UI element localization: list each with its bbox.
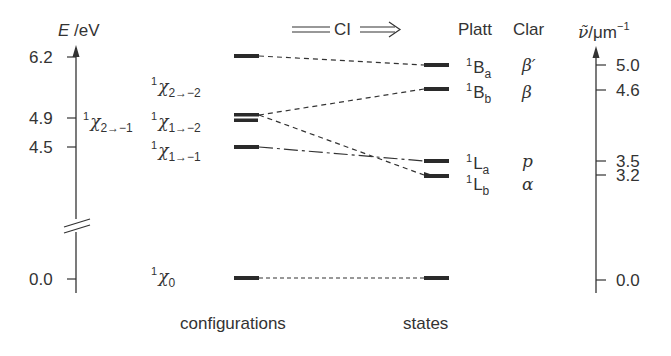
- chi-symbol: χ: [158, 76, 168, 96]
- axis-unit: /μm: [588, 23, 617, 42]
- mult: 1: [466, 173, 472, 185]
- state-bar-La: [424, 159, 449, 163]
- left-tick-label: 0.0: [29, 271, 53, 288]
- right-tick-label: 0.0: [616, 272, 640, 289]
- axis-unit: /eV: [69, 21, 99, 40]
- axis-arrow-icon: [593, 46, 600, 58]
- left-axis-label: E /eV: [58, 22, 100, 39]
- right-tick-label: 5.0: [616, 57, 640, 74]
- platt-letter: B: [473, 83, 484, 102]
- mult: 1: [151, 75, 157, 87]
- clar-label-p: p: [522, 153, 533, 170]
- platt-header: Platt: [458, 21, 492, 38]
- axis-exp: −1: [617, 20, 630, 32]
- subscript: 2→−2: [168, 86, 200, 100]
- mult: 1: [151, 110, 157, 122]
- state-levels: [424, 63, 449, 280]
- config-label-2to-1: 1χ2→−1: [83, 111, 133, 134]
- subscript: 1→−2: [168, 121, 200, 135]
- subscript: 1→−1: [168, 150, 200, 164]
- right-tick-label: 4.6: [616, 82, 640, 99]
- config-bar-1to-2: [234, 113, 259, 117]
- states-column-label: states: [403, 315, 448, 332]
- axis-break-icon: [64, 219, 90, 233]
- correlation-lines: [259, 56, 424, 278]
- right-wavenumber-axis: [593, 46, 607, 293]
- mult: 1: [151, 265, 157, 277]
- config-bar-2to-2: [234, 54, 259, 58]
- subscript: 2→−1: [100, 121, 132, 135]
- state-bar-Lb: [424, 172, 449, 178]
- state-label-Bb: 1Bb: [466, 82, 491, 105]
- mult: 1: [83, 110, 89, 122]
- chi-symbol: χ: [158, 140, 168, 160]
- platt-letter: L: [473, 154, 482, 173]
- state-label-Lb: 1Lb: [466, 174, 489, 197]
- platt-letter: B: [473, 58, 484, 77]
- config-label-1to-2: 1χ1→−2: [151, 111, 201, 134]
- left-energy-axis: [64, 45, 90, 293]
- mult: 1: [466, 56, 472, 68]
- configuration-levels: [234, 54, 259, 280]
- config-bar-ground: [234, 276, 259, 280]
- subscript: b: [483, 184, 490, 198]
- subscript: 0: [168, 276, 175, 290]
- config-label-2to-2: 1χ2→−2: [151, 76, 201, 99]
- config-bar-1to-1: [234, 145, 259, 149]
- clar-header: Clar: [513, 21, 544, 38]
- state-bar-ground: [424, 276, 449, 280]
- chi-symbol: χ: [90, 111, 100, 131]
- config-label-1to-1: 1χ1→−1: [151, 140, 201, 163]
- subscript: a: [484, 67, 491, 81]
- clar-label-beta: β: [522, 84, 532, 101]
- clar-label-alpha: α: [522, 176, 533, 193]
- chi-symbol: χ: [158, 266, 168, 286]
- state-bar-Bb: [424, 87, 449, 91]
- mult: 1: [466, 81, 472, 93]
- right-axis-label: ν̃/μm−1: [578, 21, 631, 41]
- diagram-canvas: [0, 0, 671, 356]
- subscript: b: [484, 92, 491, 106]
- config-bar-2to-1: [234, 119, 258, 123]
- axis-var: E: [58, 21, 69, 40]
- axis-arrow-icon: [73, 45, 80, 57]
- ci-label: CI: [334, 21, 351, 38]
- mult: 1: [151, 139, 157, 151]
- left-tick-label: 4.5: [29, 139, 53, 156]
- clar-label-beta-prime: β′: [522, 57, 536, 74]
- mult: 1: [466, 152, 472, 164]
- left-tick-label: 4.9: [29, 110, 53, 127]
- state-label-Ba: 1Ba: [466, 57, 491, 80]
- configurations-column-label: configurations: [180, 315, 286, 332]
- config-label-ground: 1χ0: [151, 266, 175, 289]
- left-tick-label: 6.2: [29, 49, 53, 66]
- platt-letter: L: [473, 175, 482, 194]
- axis-var: ν̃: [578, 22, 588, 42]
- state-bar-Ba: [424, 63, 449, 67]
- right-tick-label: 3.2: [616, 167, 640, 184]
- chi-symbol: χ: [158, 111, 168, 131]
